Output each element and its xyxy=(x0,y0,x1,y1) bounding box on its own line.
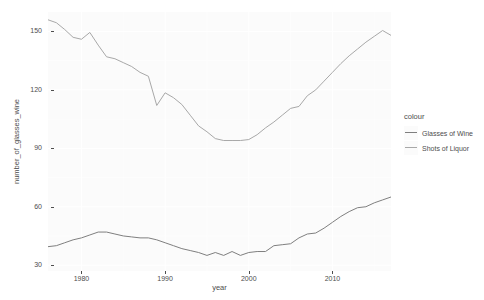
y-tick-mark xyxy=(51,90,54,91)
series-line-1 xyxy=(48,20,391,141)
y-tick-mark xyxy=(51,148,54,149)
legend-key-icon xyxy=(404,126,418,140)
legend-items: Glasses of WineShots of Liquor xyxy=(404,126,484,155)
y-tick-mark xyxy=(51,265,54,266)
series-line-0 xyxy=(48,197,391,255)
x-tick-label: 1990 xyxy=(145,275,185,282)
x-tick-label: 2010 xyxy=(312,275,352,282)
y-tick-mark xyxy=(51,207,54,208)
x-tick-mark xyxy=(249,271,250,274)
x-tick-mark xyxy=(81,271,82,274)
legend-label: Glasses of Wine xyxy=(422,130,473,137)
y-axis-title: number_of_glasses_wine xyxy=(12,12,26,271)
legend: colour Glasses of WineShots of Liquor xyxy=(404,112,484,156)
x-tick-mark xyxy=(165,271,166,274)
y-tick-mark xyxy=(51,31,54,32)
legend-title: colour xyxy=(404,112,484,121)
plot-panel xyxy=(48,12,391,271)
legend-item-0[interactable]: Glasses of Wine xyxy=(404,126,484,140)
x-tick-label: 2000 xyxy=(229,275,269,282)
legend-item-1[interactable]: Shots of Liquor xyxy=(404,141,484,155)
x-axis-title: year xyxy=(48,283,391,292)
x-tick-mark xyxy=(332,271,333,274)
chart-root: 306090120150 1980199020002010 number_of_… xyxy=(0,0,484,300)
legend-label: Shots of Liquor xyxy=(422,145,469,152)
plot-canvas xyxy=(48,12,391,271)
legend-key-icon xyxy=(404,141,418,155)
x-tick-label: 1980 xyxy=(61,275,101,282)
